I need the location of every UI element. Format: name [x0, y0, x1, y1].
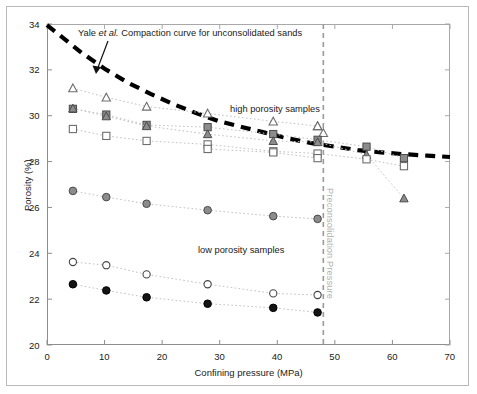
- high-porosity-annotation: high porosity samples: [230, 104, 320, 114]
- y-axis-title: Porosity (%): [22, 159, 33, 211]
- y-tick-label: 24: [29, 248, 40, 259]
- x-axis-title: Confining pressure (MPa): [195, 367, 303, 378]
- low-porosity-annotation: low porosity samples: [198, 245, 284, 255]
- yale-curve-annotation: Yale et al. Compaction curve for unconso…: [78, 28, 302, 38]
- plot-area: [47, 24, 450, 345]
- y-tick-label: 20: [29, 340, 40, 351]
- y-tick-label: 22: [29, 294, 40, 305]
- x-tick-label: 60: [387, 351, 398, 362]
- x-tick-label: 0: [45, 351, 50, 362]
- x-tick-label: 30: [214, 351, 225, 362]
- x-tick-label: 10: [99, 351, 110, 362]
- y-tick-label: 30: [29, 110, 40, 121]
- x-tick-label: 20: [157, 351, 168, 362]
- x-tick-label: 70: [445, 351, 456, 362]
- figure-container: 0102030405060702022242628303234Confining…: [0, 0, 477, 394]
- preconsolidation-pressure-label: Preconsolidation Pressure: [325, 188, 335, 299]
- x-tick-label: 50: [329, 351, 340, 362]
- y-tick-label: 32: [29, 64, 40, 75]
- y-tick-label: 34: [29, 19, 40, 30]
- x-tick-label: 40: [272, 351, 283, 362]
